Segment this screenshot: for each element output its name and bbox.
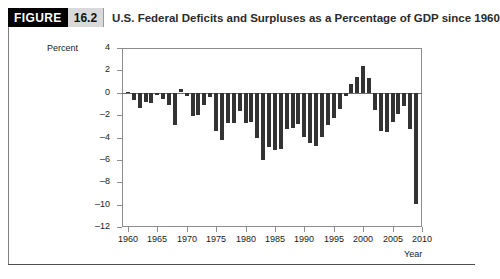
bar — [308, 93, 312, 143]
bar — [391, 93, 395, 122]
y-tick-mark — [117, 138, 122, 139]
plot-area — [122, 48, 422, 227]
y-tick-mark — [117, 93, 122, 94]
y-tick-mark — [117, 48, 122, 49]
bar — [244, 93, 248, 123]
bar — [202, 93, 206, 105]
bar — [149, 93, 153, 103]
bar — [379, 93, 383, 131]
x-tick-label: 1965 — [142, 234, 172, 244]
x-tick-mark — [216, 227, 217, 232]
bar — [291, 93, 295, 128]
bar — [320, 93, 324, 137]
bar — [214, 93, 218, 131]
bar — [396, 93, 400, 114]
x-tick-mark — [304, 227, 305, 232]
y-axis-title: Percent — [47, 43, 78, 53]
bar — [220, 93, 224, 140]
x-tick-mark — [393, 227, 394, 232]
y-tick-label: 2 — [88, 64, 110, 74]
bar — [367, 78, 371, 93]
bar — [232, 93, 236, 123]
x-tick-label: 2000 — [348, 234, 378, 244]
y-tick-mark — [117, 182, 122, 183]
bar — [167, 93, 171, 105]
bar — [414, 93, 418, 204]
bar — [302, 93, 306, 137]
y-tick-label: 4 — [88, 42, 110, 52]
bar — [279, 93, 283, 149]
y-tick-label: –10 — [88, 199, 110, 209]
x-tick-label: 1980 — [231, 234, 261, 244]
bar — [408, 93, 412, 129]
y-tick-label: –8 — [88, 176, 110, 186]
x-tick-mark — [334, 227, 335, 232]
x-tick-mark — [187, 227, 188, 232]
bar — [155, 93, 159, 95]
y-tick-label: 0 — [88, 87, 110, 97]
bar — [138, 93, 142, 108]
bar — [355, 77, 359, 93]
x-tick-label: 1990 — [289, 234, 319, 244]
x-tick-label: 1960 — [113, 234, 143, 244]
bar — [314, 93, 318, 146]
y-tick-mark — [117, 205, 122, 206]
y-tick-label: –4 — [88, 132, 110, 142]
bar — [249, 93, 253, 122]
bar — [126, 92, 130, 93]
bar — [161, 93, 165, 99]
x-axis-title: Year — [404, 249, 422, 259]
bar — [402, 93, 406, 106]
bar — [338, 93, 342, 109]
bar — [361, 66, 365, 93]
y-tick-label: –6 — [88, 154, 110, 164]
x-tick-mark — [422, 227, 423, 232]
x-tick-label: 1985 — [260, 234, 290, 244]
x-tick-label: 1970 — [172, 234, 202, 244]
x-tick-mark — [128, 227, 129, 232]
x-tick-mark — [275, 227, 276, 232]
x-tick-label: 2010 — [407, 234, 437, 244]
bar — [261, 93, 265, 160]
y-tick-label: –2 — [88, 109, 110, 119]
bar — [285, 93, 289, 129]
bar — [273, 93, 277, 150]
bar — [238, 93, 242, 111]
y-tick-label: –12 — [88, 221, 110, 231]
bar — [226, 93, 230, 123]
bar — [332, 93, 336, 118]
bar — [373, 93, 377, 110]
bar — [296, 93, 300, 124]
y-tick-mark — [117, 70, 122, 71]
y-tick-mark — [117, 115, 122, 116]
bar — [185, 93, 189, 96]
x-tick-label: 1975 — [201, 234, 231, 244]
bar — [344, 93, 348, 96]
y-tick-mark — [117, 160, 122, 161]
x-tick-label: 2005 — [378, 234, 408, 244]
bar — [196, 93, 200, 115]
x-tick-mark — [246, 227, 247, 232]
bar — [255, 93, 259, 138]
bar — [326, 93, 330, 125]
bar — [208, 93, 212, 97]
x-tick-mark — [157, 227, 158, 232]
bar — [179, 89, 183, 92]
x-tick-mark — [363, 227, 364, 232]
bar — [349, 84, 353, 93]
bar — [132, 93, 136, 100]
bar — [385, 93, 389, 132]
bar — [144, 93, 148, 102]
x-tick-label: 1995 — [319, 234, 349, 244]
bar — [267, 93, 271, 147]
bar — [191, 93, 195, 116]
y-tick-mark — [117, 227, 122, 228]
bar — [173, 93, 177, 125]
